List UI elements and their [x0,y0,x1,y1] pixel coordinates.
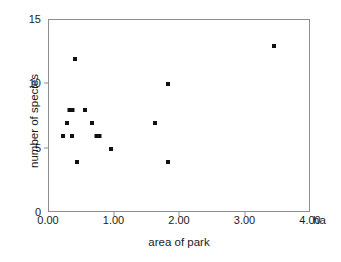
x-axis-tick-label: 0.00 [37,215,58,226]
data-point [109,147,113,151]
data-point [75,160,79,164]
data-point [61,134,65,138]
scatter-plot-figure: 051015 number of species 0.001.002.003.0… [0,0,341,262]
y-axis-tick-mark [44,83,48,84]
x-axis-tick-label: 1.00 [103,215,124,226]
data-point [272,44,276,48]
data-point [65,121,69,125]
data-point [73,57,77,61]
x-axis-tick-mark [244,212,245,216]
x-axis-tick-mark [113,212,114,216]
x-axis-unit-label: ha [313,214,326,226]
y-axis-title: number of species [28,21,40,221]
plot-frame [48,19,310,212]
data-point [90,121,94,125]
x-axis-tick-mark [179,212,180,216]
x-axis-tick-label: 3.00 [234,215,255,226]
data-point [153,121,157,125]
data-point [83,108,87,112]
y-axis-tick-mark [44,147,48,148]
data-point [166,160,170,164]
data-point [67,108,74,112]
x-axis-title: area of park [48,236,310,249]
data-point [95,134,102,138]
data-point [166,82,170,86]
x-axis-tick-label: 2.00 [168,215,189,226]
data-point [70,134,74,138]
